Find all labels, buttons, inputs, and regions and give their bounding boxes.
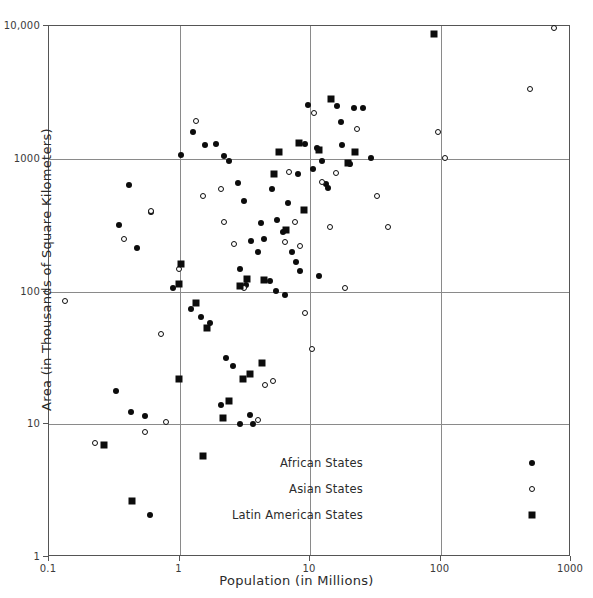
data-point [270,378,276,384]
data-point [338,119,344,125]
data-point [230,363,236,369]
data-point [325,185,331,191]
data-point [235,180,241,186]
x-axis-tick [440,556,441,561]
data-point [213,141,219,147]
legend-item-label: African States [280,456,363,470]
data-point [218,402,224,408]
data-point [319,179,325,185]
gridline-horizontal [49,292,569,293]
data-point [244,276,251,283]
data-point [435,129,441,135]
data-point [342,285,348,291]
data-point [261,277,268,284]
data-point [236,282,243,289]
y-axis-title: Area (in Thousands of Square Kilometers) [39,120,54,420]
data-point [148,208,154,214]
data-point [311,110,317,116]
data-point [271,170,278,177]
data-point [92,440,98,446]
data-point [345,160,352,167]
y-axis-tick-label: 10 [0,418,40,429]
data-point [255,249,261,255]
data-point [121,236,127,242]
gridline-vertical [180,26,181,555]
y-axis-tick-label: 1000 [0,152,40,163]
data-point [269,186,275,192]
data-point [116,222,122,228]
data-point [192,300,199,307]
data-point [333,170,339,176]
data-point [113,388,119,394]
data-point [300,206,307,213]
data-point [261,236,267,242]
data-point [295,171,301,177]
data-point [305,102,311,108]
data-point [203,325,210,332]
data-point [297,268,303,274]
data-point [282,239,288,245]
data-point [276,149,283,156]
data-point [334,103,340,109]
data-point [220,414,227,421]
data-point [285,200,291,206]
data-point [200,193,206,199]
data-point [339,142,345,148]
x-axis-tick [48,556,49,561]
data-point [292,219,298,225]
data-point [274,217,280,223]
y-axis-tick-label: 10,000 [0,20,40,31]
data-point [430,31,437,38]
data-point [551,25,557,31]
data-point [527,86,533,92]
data-point [442,155,448,161]
y-axis-tick [43,423,48,424]
y-axis-tick [43,556,48,557]
data-point [309,346,315,352]
data-point [62,298,68,304]
chart-page: 0.11101001000110100100010,000 Population… [0,0,593,598]
data-point [248,238,254,244]
data-point [258,220,264,226]
data-point [360,105,366,111]
x-axis-tick [309,556,310,561]
data-point [246,370,253,377]
data-point [147,512,153,518]
x-axis-tick [179,556,180,561]
data-point [101,441,108,448]
data-point [385,224,391,230]
data-point [231,241,237,247]
data-point [142,413,148,419]
gridline-horizontal [49,424,569,425]
data-point [297,243,303,249]
data-point [223,355,229,361]
data-point [354,126,360,132]
legend-item-label: Latin American States [232,508,363,522]
data-point [202,142,208,148]
data-point [226,158,232,164]
data-point [302,310,308,316]
x-axis-tick [570,556,571,561]
data-point [262,382,268,388]
data-point [319,158,325,164]
data-point [221,219,227,225]
legend-marker-open-circle-icon [529,486,535,492]
data-point [247,412,253,418]
data-point [193,118,199,124]
data-point [190,129,196,135]
y-axis-tick [43,25,48,26]
data-point [328,95,335,102]
legend-item-label: Asian States [289,482,363,496]
y-axis-tick-label: 1 [0,551,40,562]
legend-marker-filled-square-icon [529,512,536,519]
data-point [175,281,182,288]
data-point [198,314,204,320]
gridline-horizontal [49,159,569,160]
data-point [283,227,290,234]
data-point [218,186,224,192]
data-point [128,497,135,504]
data-point [158,331,164,337]
data-point [126,182,132,188]
data-point [374,193,380,199]
gridline-vertical [441,26,442,555]
